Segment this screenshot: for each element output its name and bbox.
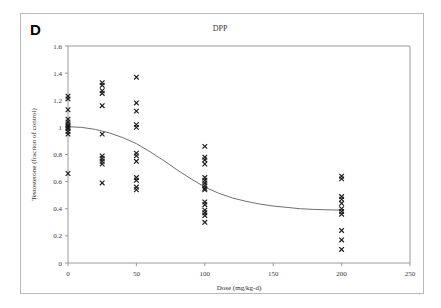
fitted-curve bbox=[68, 127, 342, 210]
svg-text:1.2: 1.2 bbox=[53, 97, 62, 105]
data-point bbox=[100, 103, 105, 108]
axes-group bbox=[68, 46, 410, 263]
data-point bbox=[339, 197, 344, 202]
data-point bbox=[134, 125, 139, 130]
tick-marks-group bbox=[65, 46, 410, 266]
x-axis-title: Dose (mg/kg-d) bbox=[217, 284, 262, 292]
x-axis-tick-labels: 050100150200250 bbox=[66, 270, 416, 278]
data-point bbox=[203, 158, 208, 163]
data-point bbox=[134, 75, 139, 80]
scatter-plot-svg: 00.20.40.60.811.21.41.6 050100150200250 … bbox=[20, 13, 424, 294]
data-point bbox=[134, 159, 139, 164]
y-axis-tick-labels: 00.20.40.60.811.21.41.6 bbox=[53, 43, 62, 268]
svg-text:50: 50 bbox=[133, 270, 141, 278]
svg-text:1.6: 1.6 bbox=[53, 43, 62, 51]
svg-text:0: 0 bbox=[66, 270, 70, 278]
svg-text:1: 1 bbox=[59, 124, 63, 132]
data-point bbox=[100, 162, 105, 167]
data-point bbox=[100, 132, 105, 137]
data-point bbox=[100, 83, 105, 88]
data-point bbox=[134, 154, 139, 159]
svg-text:200: 200 bbox=[336, 270, 347, 278]
data-point bbox=[339, 177, 344, 182]
data-point bbox=[339, 247, 344, 252]
svg-text:250: 250 bbox=[405, 270, 416, 278]
data-point bbox=[339, 212, 344, 217]
svg-text:0: 0 bbox=[59, 260, 63, 268]
svg-text:1.4: 1.4 bbox=[53, 70, 62, 78]
svg-text:0.8: 0.8 bbox=[53, 151, 62, 159]
plot-area: 00.20.40.60.811.21.41.6 050100150200250 … bbox=[20, 13, 424, 294]
figure-panel: D DPP 00.20.40.60.811.21.41.6 0501001502… bbox=[0, 0, 441, 308]
data-point bbox=[100, 91, 105, 96]
y-axis-title: Testosterone (fraction of control) bbox=[30, 108, 38, 201]
data-point bbox=[134, 109, 139, 114]
data-point bbox=[134, 178, 139, 183]
data-point bbox=[339, 228, 344, 233]
data-point bbox=[203, 162, 208, 167]
data-point bbox=[203, 213, 208, 218]
svg-text:100: 100 bbox=[200, 270, 211, 278]
data-points-group bbox=[66, 75, 344, 252]
data-point bbox=[339, 238, 344, 243]
svg-text:0.2: 0.2 bbox=[53, 232, 62, 240]
svg-text:150: 150 bbox=[268, 270, 279, 278]
data-point bbox=[203, 202, 208, 207]
svg-text:0.6: 0.6 bbox=[53, 178, 62, 186]
data-point bbox=[134, 187, 139, 192]
data-point bbox=[134, 101, 139, 106]
svg-text:0.4: 0.4 bbox=[53, 205, 62, 213]
data-point bbox=[203, 220, 208, 225]
data-point bbox=[339, 201, 344, 206]
data-point bbox=[100, 181, 105, 186]
data-point bbox=[203, 144, 208, 149]
